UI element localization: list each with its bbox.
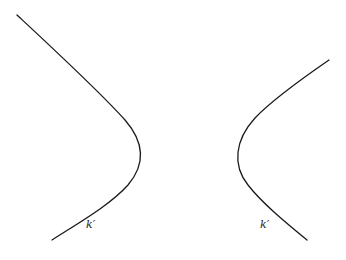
left-branch-curve	[17, 15, 140, 240]
right-branch-label: k′	[260, 218, 269, 231]
hyperbola-svg	[0, 0, 346, 260]
left-branch-label: k′	[86, 218, 95, 231]
diagram-canvas: k′ k′	[0, 0, 346, 260]
right-branch-curve	[238, 60, 329, 240]
